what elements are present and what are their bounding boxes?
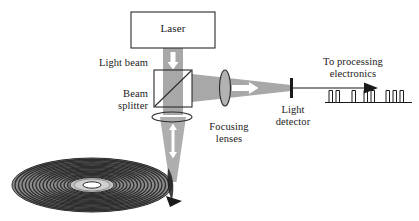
light-detector-element xyxy=(290,78,293,98)
beam-laser-to-splitter xyxy=(163,48,183,72)
light-detector-label: Light detector xyxy=(262,104,324,128)
light-beam-label: Light beam xyxy=(52,57,148,69)
to-processing-electronics-label: To processing electronics xyxy=(292,56,414,80)
focusing-lenses-label: Focusing lenses xyxy=(186,121,272,145)
beam-splitter-label: Beam splitter xyxy=(48,88,148,112)
beam-splitter-to-lens xyxy=(163,70,183,115)
focusing-lens-detector xyxy=(220,70,231,106)
beam-splitter-to-detector xyxy=(192,74,291,102)
compact-disc xyxy=(12,158,172,212)
optical-disc-readout-diagram: Laser Light beam Beam splitter Focusing … xyxy=(0,0,419,221)
digital-pulse-train xyxy=(325,91,412,103)
beam-lens-to-disc xyxy=(160,117,186,182)
laser-label: Laser xyxy=(131,22,215,34)
